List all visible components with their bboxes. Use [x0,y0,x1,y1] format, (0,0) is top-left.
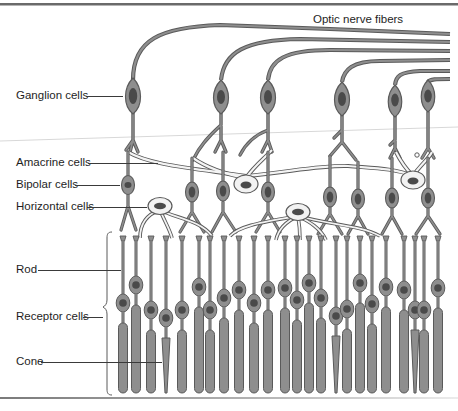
rod-cell [290,236,304,393]
label-rod: Rod [16,263,37,276]
rod-cell [261,236,275,393]
amacrine-cell [401,171,425,189]
rod-cell [144,236,158,393]
bipolar-cell [186,182,199,202]
rod-cell [302,236,316,393]
retina-diagram: Optic nerve fibers Ganglion cells Amacri… [0,0,458,411]
cone-cell [159,236,173,393]
ganglion-dendrites [126,110,434,160]
leader-horizontal [87,207,147,208]
bipolar-cell [122,176,135,195]
receptor-bracket [103,232,112,395]
leader-rod [38,270,121,271]
scan-line [0,127,458,141]
rod-cell [247,236,261,393]
bipolar-cell [352,189,365,209]
rod-cell [203,236,217,393]
horizontal-cell [286,204,310,221]
ganglion-cell [421,80,435,112]
bipolar-cell [324,187,337,207]
rod-cell [340,236,354,393]
leader-amacrine [88,163,158,164]
leader-bipolar [75,185,120,186]
ganglion-cell [261,80,276,114]
ganglion-cell [335,82,350,116]
amacrine-processes [128,150,432,178]
rod-cell [217,236,231,393]
leader-receptor [83,317,103,318]
label-ganglion-cells: Ganglion cells [16,89,88,102]
amacrine-cell [234,175,258,193]
ganglion-cell [214,80,229,114]
label-optic-nerve-fibers: Optic nerve fibers [313,13,403,25]
bottom-border [0,397,458,399]
ganglion-cells [126,78,435,117]
rod-cell [379,236,393,393]
ganglion-dendrites-fill [126,110,434,160]
ganglion-cell [126,78,141,114]
leader-cone [41,362,162,363]
top-border [0,3,458,6]
label-horizontal-cells: Horizontal cells [16,200,94,213]
horizontal-cell [148,198,172,215]
label-receptor-cells: Receptor cells [16,310,89,323]
cone-cell [329,236,343,393]
rod-cell [116,236,130,393]
rod-cell [365,236,379,393]
bipolar-cell [386,188,399,208]
ganglion-cell [388,85,402,117]
receptor-cells [116,236,445,393]
leader-ganglion [86,96,123,97]
bipolar-cell [422,188,435,208]
rod-cell [129,236,143,393]
label-bipolar-cells: Bipolar cells [16,178,78,191]
label-cone: Cone [16,355,44,368]
rod-cell [278,236,292,393]
rod-cell [353,236,367,393]
rod-cell [417,236,431,393]
bipolar-cell [262,182,275,202]
label-amacrine-cells: Amacrine cells [16,156,91,169]
rod-cell [314,236,328,393]
bipolar-cell [217,181,230,201]
rod-cell [232,236,246,393]
rod-cell [431,236,445,393]
rod-cell [175,236,189,393]
